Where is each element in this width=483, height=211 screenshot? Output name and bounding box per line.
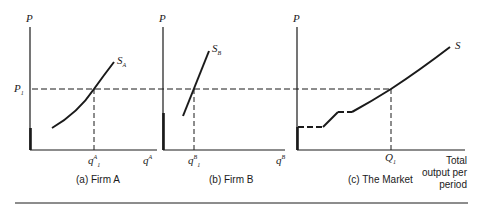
market-q1-label: Q1 bbox=[385, 152, 396, 168]
market-supply-curve bbox=[352, 47, 450, 112]
firm-b-q1-label: qB1 bbox=[188, 152, 200, 171]
firm-a-q1-label: qA1 bbox=[88, 152, 100, 171]
firm-b-x-axis-label: qB bbox=[276, 152, 285, 166]
firm-a-caption: (a) Firm A bbox=[76, 174, 120, 185]
market-y-axis-label: P bbox=[293, 13, 300, 24]
market-x-axis-label: Total output per period bbox=[420, 155, 467, 191]
firm-b-curve-label: SB bbox=[212, 43, 221, 59]
firm-b-y-axis-label: P bbox=[159, 13, 166, 24]
market-supply-step bbox=[323, 112, 338, 127]
market-curve-label: S bbox=[455, 40, 461, 51]
firm-a-curve-label: SA bbox=[117, 55, 126, 71]
firm-b-supply-curve bbox=[183, 51, 209, 116]
firm-b-caption: (b) Firm B bbox=[209, 174, 253, 185]
firm-a-x-axis-label: qA bbox=[143, 152, 152, 166]
price-p1-label: P1 bbox=[14, 83, 24, 99]
firm-a-supply-curve bbox=[52, 62, 114, 128]
firm-a-y-axis-label: P bbox=[26, 13, 33, 24]
market-caption: (c) The Market bbox=[348, 174, 413, 185]
